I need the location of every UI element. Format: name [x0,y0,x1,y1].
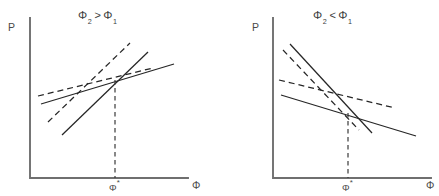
curve-flat-solid-left [41,64,174,104]
panel-left-plot [0,0,220,196]
panel-right: P Φ Φ2<Φ1 Φ* [219,0,439,196]
equilibrium-symbol-left: Φ [109,182,117,193]
x-axis-label-left: Φ [192,180,201,191]
condition-symbol2-right: Φ [338,9,347,21]
condition-comparator-right: < [327,9,339,21]
condition-sub-left-1: 2 [88,17,92,26]
panel-left: P Φ Φ2>Φ1 Φ* [0,0,220,196]
equilibrium-label-right: Φ* [342,181,353,193]
condition-label-left: Φ2>Φ1 [78,10,117,24]
condition-comparator-left: > [92,9,104,21]
equilibrium-star-right: * [350,178,353,187]
condition-symbol-left: Φ [78,9,87,21]
equilibrium-symbol-right: Φ [342,182,350,193]
equilibrium-star-left: * [117,178,120,187]
condition-symbol2-left: Φ [103,9,112,21]
condition-sub-right-2: 1 [348,17,352,26]
curve-flat-dashed-right [279,80,395,108]
curve-steep-solid-right [290,44,372,133]
condition-symbol-right: Φ [313,9,322,21]
equilibrium-label-left: Φ* [109,181,120,193]
figure-container: P Φ Φ2>Φ1 Φ* P Φ Φ2<Φ1 [0,0,439,196]
condition-sub-left-2: 1 [113,17,117,26]
curve-steep-dashed-left [48,43,130,122]
curve-flat-dashed-left [38,68,153,96]
y-axis-label-left: P [8,22,15,33]
condition-label-right: Φ2<Φ1 [313,10,352,24]
y-axis-label-right: P [252,22,259,33]
x-axis-label-right: Φ [426,180,435,191]
axes-left [30,18,188,178]
condition-sub-right-1: 2 [323,17,327,26]
curve-steep-dashed-right [283,50,359,130]
